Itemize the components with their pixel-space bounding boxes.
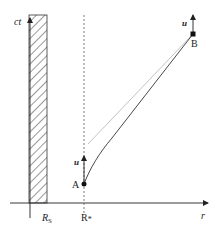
point-a [82, 182, 87, 187]
ct-axis-label: ct [14, 16, 21, 27]
rs-label-main: R [41, 212, 48, 223]
rstar-label: R* [81, 212, 92, 224]
spacetime-diagram: ct r RS R* u A u B [0, 0, 224, 233]
worldline-curve [84, 34, 193, 184]
vector-u-a-label: u [74, 157, 79, 167]
faint-straight-line [88, 34, 193, 144]
rstar-label-sub: * [88, 215, 92, 224]
hatched-region [29, 15, 47, 203]
rs-label-sub: S [48, 217, 52, 225]
point-b-label: B [191, 38, 198, 49]
rs-label: RS [41, 212, 52, 225]
svg-text:R*: R* [81, 212, 92, 224]
point-b [191, 32, 196, 37]
svg-text:RS: RS [41, 212, 52, 225]
point-a-label: A [72, 179, 80, 190]
vector-u-b-label: u [182, 18, 187, 28]
r-axis-label: r [201, 210, 205, 221]
